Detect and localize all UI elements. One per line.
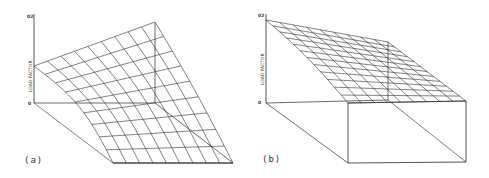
axis-min-label-b: 0 — [258, 100, 261, 105]
axis-max-label-b: 02 — [258, 13, 264, 18]
panel-label-a: (a) — [24, 155, 43, 165]
surface-plot-b — [266, 14, 466, 163]
axis-title-a: LOAD FACTOR — [28, 60, 33, 92]
axis-min-label-a: 0 — [28, 101, 31, 106]
panel-label-b: (b) — [262, 154, 281, 164]
figure-canvas: 02 0 LOAD FACTOR 02 0 LOAD FACTOR — [0, 0, 489, 178]
axis-max-label-a: 02 — [27, 14, 33, 19]
axis-title-b: LOAD FACTOR — [260, 53, 265, 85]
surface-plot-a — [34, 14, 233, 163]
